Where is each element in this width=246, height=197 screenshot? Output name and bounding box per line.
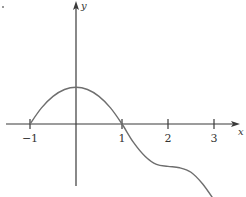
x-tick-label: 1 [119, 132, 126, 145]
x-tick-label: −1 [22, 132, 38, 145]
x-axis-label: x [238, 126, 244, 137]
y-axis-label: y [80, 0, 87, 11]
x-tick-label: 3 [211, 132, 218, 145]
x-tick-label: 2 [165, 132, 172, 145]
function-graph: x y −1123 [0, 0, 246, 197]
scan-noise-mark [2, 6, 4, 8]
x-ticks: −1123 [22, 119, 218, 145]
